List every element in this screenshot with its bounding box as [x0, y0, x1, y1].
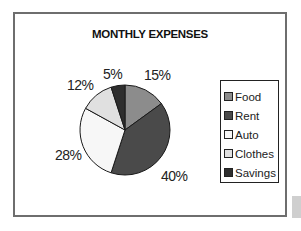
legend-swatch-savings — [224, 168, 233, 177]
label-auto: 28% — [55, 147, 82, 163]
legend-swatch-clothes — [224, 149, 233, 158]
partial-element — [292, 196, 301, 218]
legend-label: Rent — [235, 110, 259, 122]
legend-label: Auto — [235, 129, 259, 141]
label-food: 15% — [144, 67, 171, 83]
legend-item-food: Food — [224, 87, 278, 106]
legend-label: Food — [235, 91, 261, 103]
label-clothes: 12% — [67, 77, 94, 93]
legend-label: Clothes — [235, 148, 274, 160]
legend-swatch-auto — [224, 130, 233, 139]
legend-label: Savings — [235, 167, 276, 179]
chart-area: MONTHLY EXPENSES 15% 40% 28% 12% 5% Food… — [13, 12, 287, 217]
label-rent: 40% — [161, 168, 188, 184]
pie-slices — [80, 85, 170, 175]
legend-item-rent: Rent — [224, 106, 278, 125]
legend-item-savings: Savings — [224, 163, 278, 182]
legend-item-clothes: Clothes — [224, 144, 278, 163]
chart-legend: Food Rent Auto Clothes Savings — [220, 80, 279, 183]
legend-swatch-rent — [224, 111, 233, 120]
label-savings: 5% — [103, 66, 122, 82]
legend-item-auto: Auto — [224, 125, 278, 144]
legend-swatch-food — [224, 92, 233, 101]
